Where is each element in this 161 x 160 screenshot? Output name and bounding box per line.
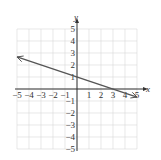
x-tick-label: 3 bbox=[111, 90, 116, 100]
y-tick-label: 2 bbox=[71, 60, 76, 70]
x-tick-label: 2 bbox=[99, 90, 104, 100]
y-tick-label: 5 bbox=[71, 24, 76, 34]
y-tick-label: −2 bbox=[65, 108, 75, 118]
x-tick-label: −4 bbox=[24, 90, 34, 100]
y-tick-label: −3 bbox=[65, 120, 75, 130]
y-tick-label: 4 bbox=[71, 36, 76, 46]
coordinate-plane: −5−4−3−2−11234554321−1−2−3−4−5 x y bbox=[0, 0, 161, 160]
x-axis-label: x bbox=[145, 84, 150, 94]
y-tick-label: −1 bbox=[65, 96, 75, 106]
y-tick-label: −5 bbox=[65, 144, 75, 154]
axes bbox=[15, 18, 148, 151]
y-tick-label: −4 bbox=[65, 132, 75, 142]
y-tick-label: 1 bbox=[71, 72, 76, 82]
x-tick-label: −3 bbox=[36, 90, 46, 100]
y-axis-label: y bbox=[73, 12, 78, 22]
y-tick-label: 3 bbox=[71, 48, 76, 58]
x-tick-label: −2 bbox=[48, 90, 58, 100]
x-tick-label: −5 bbox=[12, 90, 22, 100]
x-tick-label: 1 bbox=[87, 90, 92, 100]
x-tick-label: 4 bbox=[123, 90, 128, 100]
